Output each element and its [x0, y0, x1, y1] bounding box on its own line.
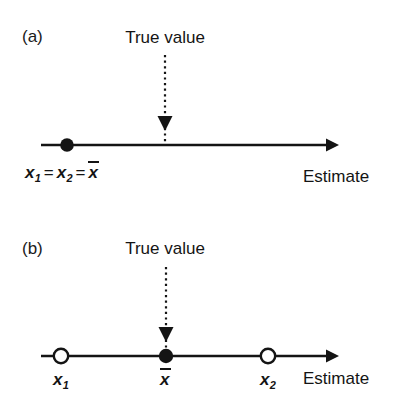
panel-a-graphics — [41, 55, 339, 152]
panel-b-axis-arrowhead — [326, 350, 339, 363]
panel-a-label: (a) — [22, 27, 43, 47]
panel-b-xbar-symbol: x — [160, 370, 169, 390]
panel-b-label: (b) — [22, 239, 43, 259]
estimate-marker-x2 — [261, 349, 275, 363]
panel-b-x1-subscript: 1 — [62, 379, 68, 391]
panel-a-xbar-symbol: x — [88, 163, 97, 183]
panel-b-x2-subscript: 2 — [269, 379, 275, 391]
estimate-marker-coincident — [60, 138, 74, 152]
panel-b-graphics — [41, 267, 339, 363]
panel-a-x1-subscript: 1 — [34, 172, 40, 184]
figure-canvas — [0, 0, 400, 394]
panel-a-equals-2: = — [73, 163, 89, 182]
panel-a-x2-symbol: x — [57, 163, 66, 182]
panel-a-axis-arrowhead — [326, 139, 339, 152]
estimate-marker-x1 — [54, 349, 68, 363]
figure-root: (a) True value x1=x2=x Estimate (b) True… — [0, 0, 400, 394]
panel-a-axis-caption: Estimate — [303, 167, 369, 187]
panel-b-tick-label-xbar: x — [160, 370, 169, 390]
panel-a-equals-1: = — [41, 163, 57, 182]
panel-b-true-value-label: True value — [103, 239, 227, 259]
panel-a-true-value-label: True value — [103, 28, 227, 48]
panel-a-true-value-arrowhead — [158, 116, 173, 131]
panel-b-axis-caption: Estimate — [303, 369, 369, 389]
panel-a-x2-subscript: 2 — [66, 172, 72, 184]
panel-a-estimate-expression: x1=x2=x — [25, 163, 98, 184]
panel-b-tick-label-x2: x2 — [260, 370, 276, 391]
panel-b-tick-label-x1: x1 — [53, 370, 69, 391]
estimate-marker-mean — [159, 349, 173, 363]
panel-b-true-value-arrowhead — [159, 327, 174, 342]
